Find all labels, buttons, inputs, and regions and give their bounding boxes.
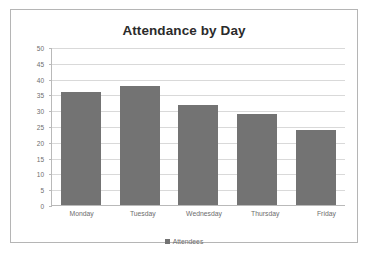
bar-monday[interactable]	[61, 92, 101, 206]
y-axis-tick-label: 5	[40, 187, 44, 194]
y-axis-tick-mark	[49, 206, 52, 207]
y-axis-tick-label: 20	[37, 139, 44, 146]
x-axis-tick-label: Friday	[296, 210, 357, 217]
bar-tuesday[interactable]	[120, 86, 160, 206]
y-axis-tick-label: 50	[37, 45, 44, 52]
x-axis-tick-label: Monday	[51, 210, 112, 217]
bar-slot	[228, 48, 287, 206]
x-axis-tick-label: Wednesday	[173, 210, 234, 217]
legend-label: Attendees	[173, 238, 204, 245]
y-axis-tick-label: 40	[37, 76, 44, 83]
bars-layer	[52, 48, 345, 206]
chart-legend: Attendees	[11, 238, 357, 245]
plot-area	[51, 48, 345, 206]
chart-frame: Attendance by Day 05101520253035404550 M…	[10, 9, 358, 243]
y-axis-tick-label: 25	[37, 124, 44, 131]
x-axis-tick-labels: MondayTuesdayWednesdayThursdayFriday	[51, 210, 357, 217]
bar-slot	[169, 48, 228, 206]
bar-thursday[interactable]	[237, 114, 277, 206]
y-axis-tick-labels: 05101520253035404550	[25, 48, 47, 206]
chart-title: Attendance by Day	[11, 23, 357, 38]
bar-slot	[52, 48, 111, 206]
y-axis-tick-label: 0	[40, 203, 44, 210]
x-axis-tick-label: Tuesday	[112, 210, 173, 217]
y-axis-tick-label: 15	[37, 155, 44, 162]
bar-slot	[111, 48, 170, 206]
bar-wednesday[interactable]	[178, 105, 218, 206]
bar-slot	[286, 48, 345, 206]
plot-wrapper: 05101520253035404550	[25, 48, 345, 206]
axis-baseline	[52, 205, 345, 206]
bar-friday[interactable]	[296, 130, 336, 206]
y-axis-tick-label: 35	[37, 92, 44, 99]
legend-swatch-icon	[165, 239, 170, 244]
y-axis-tick-label: 10	[37, 171, 44, 178]
x-axis-tick-label: Thursday	[235, 210, 296, 217]
y-axis-tick-label: 45	[37, 60, 44, 67]
y-axis-tick-label: 30	[37, 108, 44, 115]
